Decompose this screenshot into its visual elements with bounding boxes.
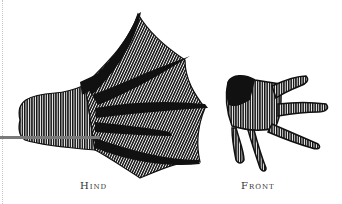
front-label: Front xyxy=(241,180,275,191)
hind-foot-figure xyxy=(19,12,208,178)
front-hand-figure xyxy=(226,76,327,171)
feet-illustration xyxy=(0,0,342,204)
pointer-line xyxy=(0,136,100,139)
hind-label: Hind xyxy=(80,180,107,191)
